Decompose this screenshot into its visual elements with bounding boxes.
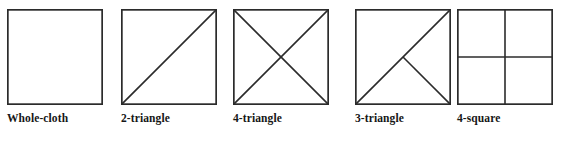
figure-label-4-triangle: 4-triangle (233, 111, 282, 125)
shape-4-triangle (233, 9, 329, 105)
shape-3-triangle (355, 9, 451, 105)
shape-whole-cloth (7, 9, 103, 105)
shape-4-square (457, 9, 553, 105)
figure-label-4-square: 4-square (457, 111, 500, 125)
figure-label-2-triangle: 2-triangle (121, 111, 170, 125)
quilt-block-figure-plate: Whole-cloth 2-triangle 4-triangle (0, 0, 566, 144)
figure-label-whole-cloth: Whole-cloth (7, 111, 68, 125)
square-outline (8, 10, 102, 104)
shape-2-triangle (121, 9, 217, 105)
figure-label-3-triangle: 3-triangle (355, 111, 404, 125)
